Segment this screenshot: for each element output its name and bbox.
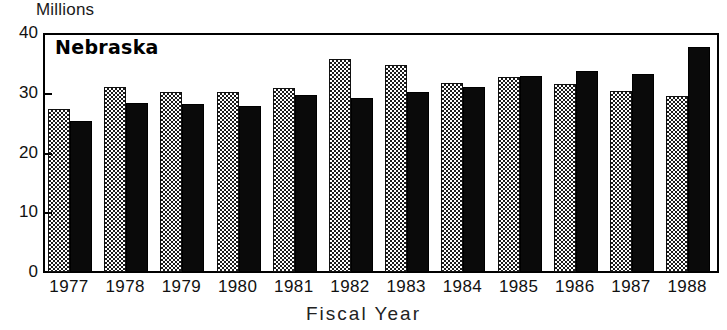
x-axis-tick-1979: 1979	[153, 277, 209, 297]
bar-series-a-1984	[441, 83, 463, 272]
y-axis-tickmark-30	[43, 93, 52, 95]
y-axis-tickmark-20	[43, 153, 52, 155]
bar-series-b-1977	[70, 121, 92, 272]
x-axis-tick-1981: 1981	[266, 277, 322, 297]
bar-series-b-1987	[632, 74, 654, 272]
bar-series-a-1988	[666, 96, 688, 272]
bar-series-b-1980	[239, 106, 261, 272]
bar-series-a-1986	[554, 84, 576, 272]
x-axis-tick-1977: 1977	[41, 277, 97, 297]
x-axis-tick-1985: 1985	[491, 277, 547, 297]
bar-series-a-1985	[498, 77, 520, 272]
bar-series-b-1988	[688, 47, 710, 272]
x-axis-title: Fiscal Year	[0, 303, 727, 325]
x-axis-tick-1982: 1982	[322, 277, 378, 297]
bar-series-b-1986	[576, 71, 598, 272]
bar-series-b-1981	[295, 95, 317, 272]
bar-series-a-1987	[610, 91, 632, 272]
bar-chart: Millions Nebraska 010203040 Fiscal Year …	[0, 0, 727, 330]
x-axis-tick-1984: 1984	[434, 277, 490, 297]
bar-series-b-1978	[126, 103, 148, 272]
bar-series-b-1983	[407, 92, 429, 272]
bar-series-a-1982	[329, 59, 351, 272]
bar-series-a-1978	[104, 87, 126, 272]
bar-series-a-1983	[385, 65, 407, 272]
bar-series-a-1980	[217, 92, 239, 272]
x-axis-tick-1988: 1988	[659, 277, 715, 297]
bar-series-b-1982	[351, 98, 373, 272]
bar-series-b-1985	[520, 76, 542, 272]
bar-series-a-1977	[48, 109, 70, 272]
bar-series-a-1979	[160, 92, 182, 272]
x-axis-tick-1978: 1978	[97, 277, 153, 297]
bar-series-b-1979	[182, 104, 204, 272]
y-axis-tickmark-10	[43, 212, 52, 214]
x-axis-tick-1986: 1986	[547, 277, 603, 297]
x-axis-tick-1980: 1980	[210, 277, 266, 297]
bar-series-a-1981	[273, 88, 295, 272]
bar-series-b-1984	[463, 87, 485, 272]
x-axis-tick-1983: 1983	[378, 277, 434, 297]
x-axis-tick-1987: 1987	[603, 277, 659, 297]
